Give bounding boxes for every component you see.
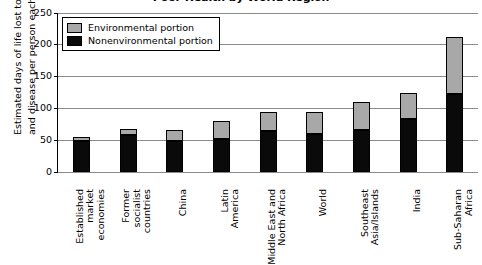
bar-segment-nonenvironmental-4[interactable] bbox=[260, 131, 277, 172]
x-axis-label-4-line-1: North Africa bbox=[277, 189, 293, 265]
gridline-150: 150 bbox=[58, 76, 478, 77]
bar-segment-environmental-2[interactable] bbox=[166, 130, 183, 141]
bar-7[interactable] bbox=[400, 93, 417, 173]
gridline-0: 0 bbox=[58, 172, 478, 173]
chart-legend: Environmental portion Nonenvironmental p… bbox=[62, 17, 220, 51]
x-axis-label-8-line-1: Africa bbox=[464, 189, 480, 265]
bar-2[interactable] bbox=[166, 130, 183, 172]
bar-5[interactable] bbox=[306, 112, 323, 172]
tick-mark-200 bbox=[54, 44, 58, 45]
x-axis-label-group-8: Sub-SaharanAfrica bbox=[444, 13, 465, 29]
ytick-label-200: 200 bbox=[22, 39, 52, 49]
legend-item-nonenvironmental: Nonenvironmental portion bbox=[67, 34, 213, 47]
x-axis-label-2-line-0: China bbox=[178, 189, 194, 265]
legend-label-environmental: Environmental portion bbox=[88, 22, 194, 33]
bar-segment-nonenvironmental-2[interactable] bbox=[166, 141, 183, 172]
y-axis-title: Estimated days of life lost to death and… bbox=[11, 0, 45, 135]
x-axis-label-1-line-2: countries bbox=[142, 189, 158, 265]
x-axis-label-group-6: SoutheastAsia/Islands bbox=[351, 13, 372, 29]
bar-1[interactable] bbox=[120, 129, 137, 172]
bar-8[interactable] bbox=[446, 37, 463, 172]
bar-6[interactable] bbox=[353, 102, 370, 172]
tick-mark-0 bbox=[54, 172, 58, 173]
x-axis-label-0-line-2: economies bbox=[96, 189, 112, 265]
ytick-label-150: 150 bbox=[22, 71, 52, 81]
legend-swatch-environmental-icon bbox=[67, 23, 82, 33]
tick-mark-50 bbox=[54, 140, 58, 141]
legend-label-nonenvironmental: Nonenvironmental portion bbox=[88, 35, 213, 46]
tick-mark-250 bbox=[54, 13, 58, 14]
x-axis-label-group-5: World bbox=[309, 13, 320, 29]
ytick-label-50: 50 bbox=[22, 135, 52, 145]
bar-3[interactable] bbox=[213, 121, 230, 172]
bar-segment-environmental-4[interactable] bbox=[260, 112, 277, 132]
ytick-label-0: 0 bbox=[22, 167, 52, 177]
legend-item-environmental: Environmental portion bbox=[67, 21, 213, 34]
bar-segment-nonenvironmental-3[interactable] bbox=[213, 139, 230, 172]
bar-segment-environmental-6[interactable] bbox=[353, 102, 370, 130]
tick-mark-150 bbox=[54, 76, 58, 77]
bar-segment-nonenvironmental-5[interactable] bbox=[306, 134, 323, 172]
bar-segment-environmental-5[interactable] bbox=[306, 112, 323, 134]
tick-mark-100 bbox=[54, 108, 58, 109]
bar-segment-environmental-8[interactable] bbox=[446, 37, 463, 94]
ytick-label-100: 100 bbox=[22, 103, 52, 113]
x-axis-label-group-4: Middle East andNorth Africa bbox=[258, 13, 279, 29]
bar-4[interactable] bbox=[260, 112, 277, 172]
bar-segment-nonenvironmental-7[interactable] bbox=[400, 119, 417, 172]
bar-segment-nonenvironmental-8[interactable] bbox=[446, 94, 463, 172]
x-axis-label-7-line-0: India bbox=[412, 189, 428, 265]
x-axis-label-5-line-0: World bbox=[318, 189, 334, 265]
bar-segment-nonenvironmental-0[interactable] bbox=[73, 141, 90, 172]
chart-title: Poor Health by World Region bbox=[0, 0, 482, 5]
bar-segment-environmental-3[interactable] bbox=[213, 121, 230, 139]
chart-figure: Poor Health by World Region Estimated da… bbox=[0, 0, 482, 265]
y-axis-title-line-1: Estimated days of life lost to death bbox=[11, 0, 25, 135]
legend-swatch-nonenvironmental-icon bbox=[67, 36, 82, 46]
bar-segment-nonenvironmental-6[interactable] bbox=[353, 130, 370, 172]
bar-0[interactable] bbox=[73, 137, 90, 172]
x-axis-label-3-line-1: America bbox=[230, 189, 246, 265]
x-axis-label-group-7: India bbox=[403, 13, 414, 29]
x-axis-label-6-line-1: Asia/Islands bbox=[370, 189, 386, 265]
y-axis-title-line-2: and disease per person each year bbox=[25, 0, 39, 135]
bar-segment-environmental-7[interactable] bbox=[400, 93, 417, 120]
ytick-label-250: 250 bbox=[22, 8, 52, 18]
bar-segment-nonenvironmental-1[interactable] bbox=[120, 135, 137, 172]
